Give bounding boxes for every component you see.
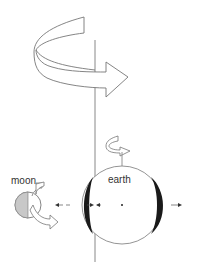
large-rotation-arrow-icon bbox=[34, 17, 128, 97]
moon-label: moon bbox=[11, 176, 36, 186]
earth-spin-arrow-icon bbox=[106, 136, 130, 156]
earth-center-dot bbox=[121, 204, 123, 206]
earth-label: earth bbox=[108, 175, 131, 185]
tidal-diagram bbox=[0, 0, 200, 268]
